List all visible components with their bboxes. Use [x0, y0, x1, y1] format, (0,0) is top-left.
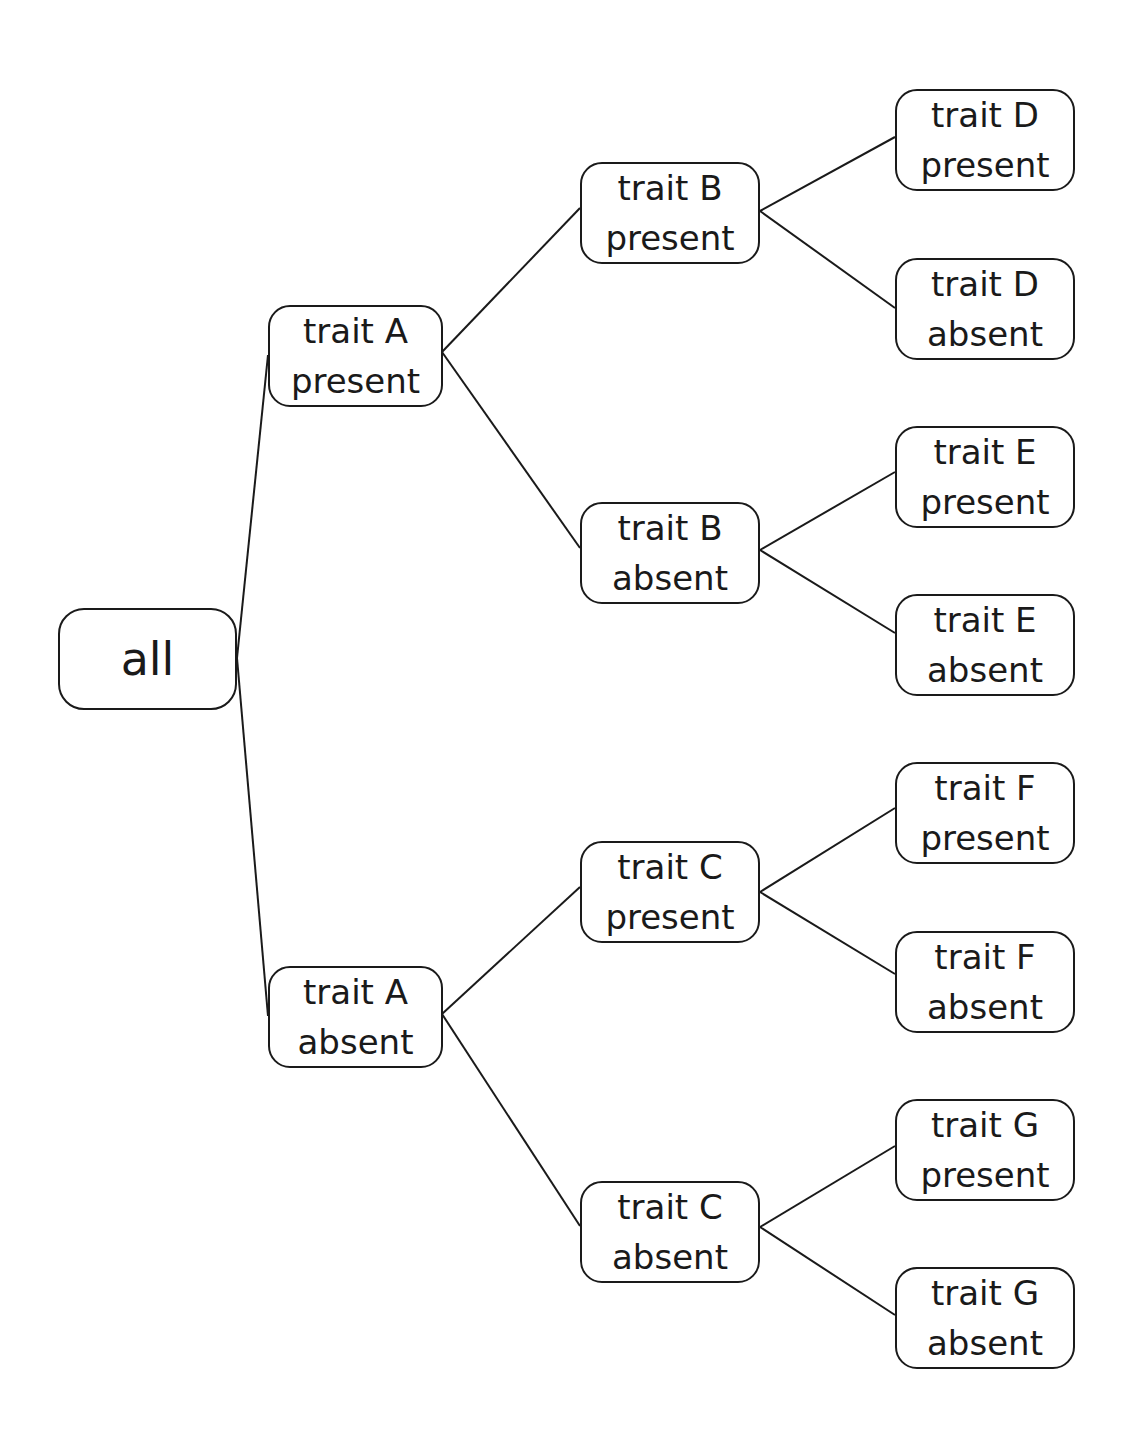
trait-tree-diagram: all trait A present trait A absent trait…: [0, 0, 1139, 1444]
edge-a-absent-c-present: [442, 887, 580, 1014]
node-label-line2: present: [605, 213, 734, 263]
node-label-line2: absent: [927, 645, 1043, 695]
edge-b-absent-e-present: [760, 472, 895, 550]
edge-c-present-f-absent: [760, 892, 895, 974]
node-label-line1: trait A: [303, 306, 408, 356]
node-label-line1: trait F: [934, 932, 1035, 982]
node-trait-c-present: trait C present: [580, 841, 760, 943]
node-trait-d-absent: trait D absent: [895, 258, 1075, 360]
node-trait-c-absent: trait C absent: [580, 1181, 760, 1283]
node-label-line1: trait F: [934, 763, 1035, 813]
node-all-label: all: [121, 634, 175, 684]
node-label-line2: absent: [927, 982, 1043, 1032]
edge-c-absent-g-absent: [760, 1227, 895, 1315]
node-label-line2: absent: [927, 309, 1043, 359]
node-label-line1: trait B: [617, 163, 722, 213]
node-trait-f-present: trait F present: [895, 762, 1075, 864]
edge-c-absent-g-present: [760, 1146, 895, 1227]
node-label-line1: trait G: [931, 1100, 1039, 1150]
node-label-line1: trait C: [617, 1182, 722, 1232]
node-label-line1: trait E: [933, 427, 1036, 477]
node-label-line2: absent: [612, 553, 728, 603]
node-label-line2: present: [920, 477, 1049, 527]
node-label-line1: trait D: [931, 259, 1039, 309]
edge-a-present-b-absent: [442, 352, 580, 548]
tree-edges: [0, 0, 1139, 1444]
node-trait-e-absent: trait E absent: [895, 594, 1075, 696]
node-label-line2: absent: [612, 1232, 728, 1282]
edge-root-a-present: [237, 355, 268, 658]
node-label-line2: absent: [927, 1318, 1043, 1368]
node-all: all: [58, 608, 237, 710]
edge-a-present-b-present: [442, 208, 580, 352]
node-trait-d-present: trait D present: [895, 89, 1075, 191]
node-trait-f-absent: trait F absent: [895, 931, 1075, 1033]
node-label-line2: present: [605, 892, 734, 942]
node-trait-e-present: trait E present: [895, 426, 1075, 528]
node-label-line2: present: [291, 356, 420, 406]
node-label-line1: trait E: [933, 595, 1036, 645]
node-trait-b-present: trait B present: [580, 162, 760, 264]
edge-b-present-d-present: [760, 137, 895, 211]
edge-c-present-f-present: [760, 808, 895, 892]
node-label-line1: trait A: [303, 967, 408, 1017]
node-label-line2: present: [920, 813, 1049, 863]
node-trait-b-absent: trait B absent: [580, 502, 760, 604]
edge-a-absent-c-absent: [442, 1014, 580, 1226]
edge-b-absent-e-absent: [760, 550, 895, 633]
node-label-line1: trait B: [617, 503, 722, 553]
node-label-line2: present: [920, 1150, 1049, 1200]
edge-b-present-d-absent: [760, 211, 895, 308]
node-trait-a-absent: trait A absent: [268, 966, 443, 1068]
node-trait-a-present: trait A present: [268, 305, 443, 407]
node-label-line1: trait G: [931, 1268, 1039, 1318]
node-label-line2: present: [920, 140, 1049, 190]
node-label-line1: trait D: [931, 90, 1039, 140]
node-label-line2: absent: [298, 1017, 414, 1067]
edge-root-a-absent: [237, 658, 268, 1016]
node-trait-g-absent: trait G absent: [895, 1267, 1075, 1369]
node-trait-g-present: trait G present: [895, 1099, 1075, 1201]
node-label-line1: trait C: [617, 842, 722, 892]
